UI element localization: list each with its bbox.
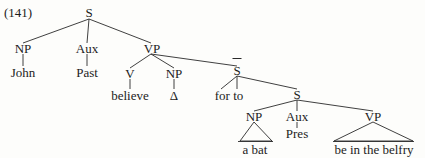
leaf-be-in-the-belfry: be in the belfry — [334, 143, 413, 156]
node-s-top: S — [85, 6, 92, 19]
leaf-believe: believe — [111, 89, 149, 102]
leaf-for-to: for to — [215, 89, 244, 102]
syntax-tree-figure: (141) — [0, 0, 425, 158]
node-np-subject: NP — [15, 42, 32, 55]
branch-vp-to-sbar — [151, 54, 237, 66]
branch-s-to-vp — [89, 19, 151, 43]
node-aux-matrix: Aux — [76, 42, 98, 55]
node-vp-embedded: VP — [365, 110, 382, 123]
node-vp-matrix: VP — [144, 42, 161, 55]
node-v-matrix: V — [125, 67, 134, 80]
tree-branch-lines — [0, 0, 425, 158]
triangle-a-bat — [240, 122, 272, 141]
node-s-bar: S — [233, 64, 240, 77]
leaf-john: John — [11, 66, 36, 79]
branch-s-to-aux — [87, 19, 89, 43]
leaf-past: Past — [76, 66, 98, 79]
node-aux-embedded: Aux — [286, 110, 308, 123]
leaf-pres: Pres — [286, 127, 308, 140]
node-s-embedded: S — [293, 88, 300, 101]
triangle-be-in-the-belfry — [334, 122, 413, 141]
example-number-label: (141) — [4, 6, 32, 19]
s-bar-overline — [233, 58, 242, 59]
node-np-embedded: NP — [246, 110, 263, 123]
branch-s-to-np-subject — [23, 19, 89, 43]
leaf-a-bat: a bat — [243, 143, 268, 156]
branch-sbar-to-s-embedded — [237, 76, 297, 89]
leaf-delta: Δ — [170, 89, 178, 102]
node-np-object: NP — [166, 67, 183, 80]
branch-s-embedded-to-vp — [297, 100, 373, 111]
